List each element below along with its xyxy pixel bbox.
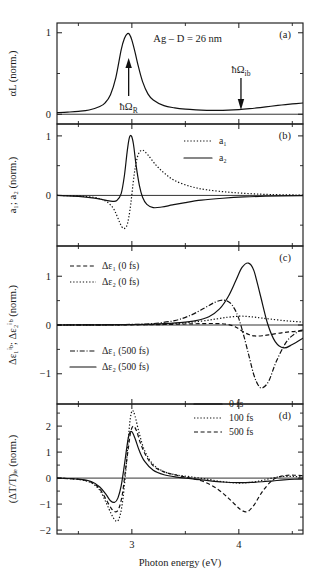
y-tick-label: −1 [40,499,51,510]
panel-tag: (a) [279,29,291,41]
legend-panel-d-label: 100 fs [229,412,253,423]
y-tick-label: 0 [46,190,51,201]
panel-tag: (d) [279,410,292,422]
x-tick-label: 3 [129,539,134,550]
legend-panel-b-label: a₂ [219,152,227,163]
y-axis-label: a₁; a₂ (norm.) [7,156,19,213]
figure-root: 01αL (norm.)(a)01a₁; a₂ (norm.)(b)−101Δε… [0,0,317,586]
panel-tag: (b) [279,130,292,142]
y-axis-label: (ΔT/T)ᵢₑ (norm.) [7,434,19,503]
sample-label: Ag – D = 26 nm [153,33,222,44]
panel-tag: (c) [279,252,291,264]
y-tick-label: 2 [46,421,51,432]
y-tick-label: 1 [46,447,51,458]
legend-panel-c-upper-label: Δε₂ (0 fs) [102,276,139,288]
x-tick-label: 4 [236,539,242,550]
multi-panel-figure: 01αL (norm.)(a)01a₁; a₂ (norm.)(b)−101Δε… [0,0,317,586]
y-axis-label: αL (norm.) [7,50,19,96]
y-tick-label: 1 [46,131,51,142]
y-tick-label: 1 [46,271,51,282]
y-axis-label: Δε₁ⁱᵇ; Δε₂ⁱᵇ (norm.) [7,284,19,365]
x-axis-title-group: Photon energy (eV) [139,557,222,569]
legend-panel-d-label: 0 fs [229,398,244,409]
legend-panel-d-label: 500 fs [229,426,253,437]
y-tick-label: −1 [40,368,51,379]
y-tick-label: 1 [46,27,51,38]
legend-panel-c-lower-label: Δε₂ (500 fs) [102,361,149,373]
x-axis-label: Photon energy (eV) [139,557,222,569]
legend-panel-b-label: a₁ [219,135,227,146]
y-tick-label: −2 [40,525,51,536]
legend-panel-c-lower-label: Δε₁ (500 fs) [102,345,149,357]
y-tick-label: 0 [46,320,51,331]
y-tick-label: 0 [46,473,51,484]
y-tick-label: 0 [46,109,51,120]
legend-panel-c-upper-label: Δε₁ (0 fs) [102,260,139,272]
